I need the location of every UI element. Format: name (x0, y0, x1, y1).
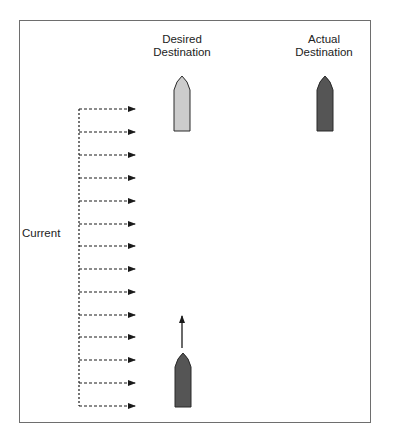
desired-boat-icon (174, 76, 190, 131)
current-arrows-group (79, 109, 135, 406)
diagram-graphics (0, 0, 393, 440)
start-boat-icon (175, 353, 191, 407)
actual-boat-icon (317, 76, 333, 131)
